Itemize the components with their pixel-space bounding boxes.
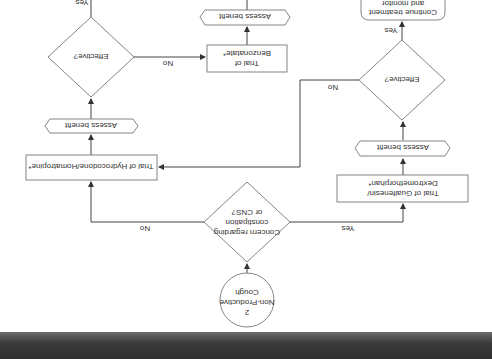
edge-label-effective-right-no: No [327, 83, 338, 92]
assess-benefit-left: Assess benefit [45, 119, 138, 133]
trial-guaifenesin-box: Trial of Guaifenesin/ Dextromethorphan* [337, 175, 468, 202]
svg-text:Assess benefit: Assess benefit [64, 121, 117, 130]
svg-text:Concern regarding: Concern regarding [214, 228, 280, 237]
svg-text:Assess benefit: Assess benefit [218, 12, 271, 21]
svg-text:2: 2 [244, 308, 249, 317]
trial-hydrocodone-box: Trial of Hydrocodone/Homatropine* [26, 155, 157, 180]
svg-text:Trial of Guaifenesin/: Trial of Guaifenesin/ [367, 189, 439, 198]
continue-treatment-node: Continue treatment and monitor [361, 0, 445, 20]
svg-text:Cough: Cough [235, 288, 259, 297]
svg-text:constipation: constipation [226, 218, 269, 227]
assess-benefit-right: Assess benefit [355, 141, 450, 156]
edge-label-concern-no: No [139, 224, 150, 233]
decision-effective-right: Effective? [359, 40, 445, 120]
svg-text:Dextromethorphan*: Dextromethorphan* [368, 179, 437, 188]
svg-text:Benzonatate*: Benzonatate* [223, 49, 271, 58]
edge-label-effective-left-yes: Yes [75, 0, 88, 7]
svg-text:Continue treatment: Continue treatment [368, 8, 437, 17]
svg-text:Assess benefit: Assess benefit [376, 143, 429, 152]
svg-text:Trial of: Trial of [234, 59, 259, 68]
svg-text:Non-Productive: Non-Productive [219, 298, 275, 307]
decision-concern: Concern regarding constipation or CNS? [204, 182, 290, 262]
scan-edge-band [0, 332, 492, 359]
edge-label-concern-yes: Yes [341, 224, 354, 233]
start-node: 2 Non-Productive Cough [219, 273, 275, 327]
svg-text:and monitor: and monitor [382, 0, 425, 8]
edge-label-effective-left-no: No [162, 59, 173, 68]
edge-label-effective-right-yes: Yes [384, 26, 397, 35]
assess-benefit-top: Assess benefit [200, 10, 290, 25]
flowchart: 2 Non-Productive Cough Concern regarding… [0, 0, 492, 359]
svg-text:Effective?: Effective? [73, 52, 109, 61]
svg-text:Trial of Hydrocodone/Homatropi: Trial of Hydrocodone/Homatropine* [28, 162, 153, 171]
trial-benzonatate-box: Trial of Benzonatate* [207, 45, 287, 72]
svg-text:Effective?: Effective? [384, 75, 420, 84]
svg-text:or CNS?: or CNS? [231, 208, 262, 217]
decision-effective-left: Effective? [48, 17, 134, 97]
